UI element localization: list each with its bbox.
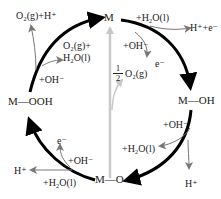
tr-product-2: e⁻ xyxy=(155,58,165,69)
fraction-denominator: 2 xyxy=(113,74,123,83)
tl-product-1b: H₂O(l) xyxy=(63,52,90,63)
center-species: O₂(g) xyxy=(125,68,147,79)
oer-cycle-diagram: M M—OH M—O M—OOH 1 2 O₂(g) +H₂O(l) +OH⁻ … xyxy=(0,0,221,199)
main-arrow-mo-to-mooh xyxy=(30,122,95,180)
node-m-o: M—O xyxy=(95,174,124,185)
tl-product-1: O₂(g)+ xyxy=(63,40,91,51)
bl-reactant-1: +OH⁻ xyxy=(68,155,93,166)
center-branch-arrow xyxy=(112,80,122,110)
node-m-ooh: M—OOH xyxy=(8,96,53,107)
r-reactant-1: +OH⁻ xyxy=(163,119,188,130)
r-product-1: H⁺ xyxy=(185,178,198,189)
node-m-oh: M—OH xyxy=(178,95,215,106)
tl-reactant-1: +OH⁻ xyxy=(39,74,64,85)
center-fraction: 1 2 xyxy=(113,64,123,83)
bl-reactant-2: +H₂O(l) xyxy=(43,177,76,188)
tr-product-1: H⁺+e⁻ xyxy=(190,22,218,33)
r-reactant-2: +H₂O(l) xyxy=(122,143,155,154)
tr-reactant-2: +OH⁻ xyxy=(123,40,148,51)
node-m: M xyxy=(104,12,114,23)
tl-product-2: O₂(g)+H⁺ xyxy=(16,10,57,21)
bl-product-2: H⁺ xyxy=(14,165,27,176)
tr-reactant-1: +H₂O(l) xyxy=(136,12,169,23)
bl-product-1: e⁻ xyxy=(57,135,67,146)
